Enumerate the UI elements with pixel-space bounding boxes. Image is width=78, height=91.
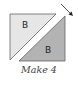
hst-diagram: B B <box>0 0 78 91</box>
arrow-down-right-icon <box>61 4 73 16</box>
top-left-label: B <box>22 20 28 30</box>
caption: Make 4 <box>0 64 78 75</box>
bottom-right-label: B <box>45 45 51 55</box>
